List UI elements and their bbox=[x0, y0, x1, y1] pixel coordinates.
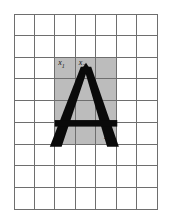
grid-cell: x2 bbox=[76, 58, 97, 80]
grid-cell bbox=[55, 14, 76, 36]
grid-cell bbox=[35, 58, 56, 80]
grid-cell bbox=[35, 101, 56, 123]
grid-cell bbox=[96, 145, 117, 167]
grid-cell bbox=[14, 58, 35, 80]
grid-cell bbox=[14, 145, 35, 167]
grid-cell bbox=[14, 79, 35, 101]
grid-cell bbox=[137, 101, 158, 123]
grid-cell bbox=[76, 36, 97, 58]
grid-cell: x1 bbox=[55, 58, 76, 80]
label-x12-subscript: 12 bbox=[108, 137, 114, 143]
grid-cell bbox=[76, 14, 97, 36]
grid-cell bbox=[35, 145, 56, 167]
grid-cell bbox=[117, 166, 138, 188]
grid-cell bbox=[117, 145, 138, 167]
grid-cell bbox=[117, 36, 138, 58]
grid-cell bbox=[117, 188, 138, 210]
grid-cell bbox=[117, 123, 138, 145]
grid-cell bbox=[96, 79, 117, 101]
grid-cell bbox=[137, 188, 158, 210]
grid-cell bbox=[35, 79, 56, 101]
grid-cell bbox=[137, 79, 158, 101]
grid-cell bbox=[14, 36, 35, 58]
grid-cell bbox=[117, 14, 138, 36]
label-x2: x2 bbox=[79, 59, 86, 69]
grid-cell bbox=[137, 145, 158, 167]
grid-cell bbox=[55, 188, 76, 210]
grid-cell bbox=[14, 188, 35, 210]
grid-cell bbox=[55, 36, 76, 58]
grid-cell bbox=[96, 58, 117, 80]
grid-cell bbox=[76, 166, 97, 188]
grid-cell bbox=[14, 166, 35, 188]
grid-cell bbox=[76, 145, 97, 167]
grid-cell bbox=[96, 188, 117, 210]
grid-cell bbox=[55, 123, 76, 145]
grid-cell bbox=[137, 36, 158, 58]
grid-cell bbox=[55, 79, 76, 101]
grid-cell bbox=[96, 166, 117, 188]
label-x2-subscript: 2 bbox=[82, 62, 85, 68]
grid-cell bbox=[55, 166, 76, 188]
grid-cell bbox=[55, 101, 76, 123]
grid-cell bbox=[76, 123, 97, 145]
grid-cell bbox=[117, 79, 138, 101]
grid-cell bbox=[137, 123, 158, 145]
grid-cell bbox=[117, 58, 138, 80]
grid-cell bbox=[76, 188, 97, 210]
grid-cell bbox=[14, 14, 35, 36]
grid-cell bbox=[76, 79, 97, 101]
grid-cell bbox=[96, 14, 117, 36]
grid-cell bbox=[96, 101, 117, 123]
grid-cell bbox=[137, 14, 158, 36]
grid-cells: x1x2x12 bbox=[14, 14, 158, 210]
grid-cell bbox=[35, 36, 56, 58]
label-x1-subscript: 1 bbox=[62, 62, 65, 68]
grid-cell bbox=[137, 166, 158, 188]
grid-cell bbox=[55, 145, 76, 167]
grid-cell bbox=[35, 166, 56, 188]
grid-cell bbox=[14, 123, 35, 145]
grid-cell bbox=[14, 101, 35, 123]
grid-cell bbox=[76, 101, 97, 123]
grid-cell bbox=[137, 58, 158, 80]
grid-cell bbox=[35, 188, 56, 210]
grid-cell bbox=[35, 14, 56, 36]
label-x12: x12 bbox=[104, 133, 114, 143]
label-x1: x1 bbox=[58, 59, 65, 69]
grid-container: x1x2x12 bbox=[14, 14, 158, 210]
grid-cell bbox=[96, 36, 117, 58]
grid-cell: x12 bbox=[96, 123, 117, 145]
figure-grid-glyph: x1x2x12 bbox=[0, 0, 173, 222]
grid-cell bbox=[117, 101, 138, 123]
grid-cell bbox=[35, 123, 56, 145]
